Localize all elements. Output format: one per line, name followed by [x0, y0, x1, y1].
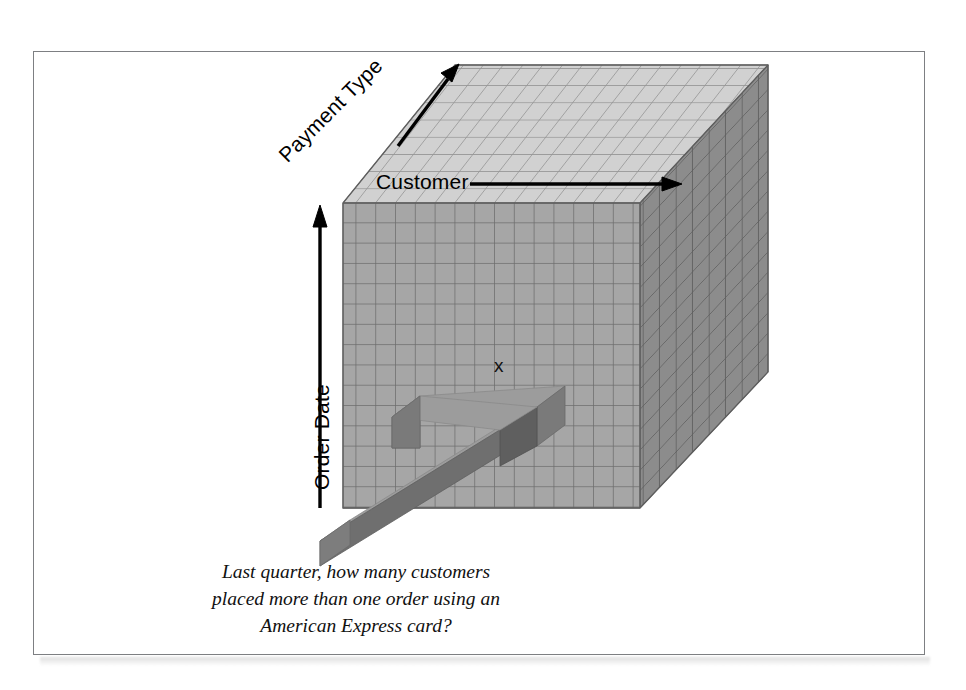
page-shadow — [40, 657, 930, 666]
caption-line-1: Last quarter, how many customers — [146, 558, 566, 585]
axis-label-order-date: Order Date — [310, 384, 334, 490]
cube-cell-marker: x — [494, 355, 504, 377]
caption-line-3: American Express card? — [146, 612, 566, 639]
figure-caption: Last quarter, how many customers placed … — [146, 558, 566, 639]
axis-label-customer: Customer — [376, 170, 469, 194]
figure-page: Customer Payment Type Order Date x Last … — [0, 0, 966, 690]
caption-line-2: placed more than one order using an — [146, 585, 566, 612]
